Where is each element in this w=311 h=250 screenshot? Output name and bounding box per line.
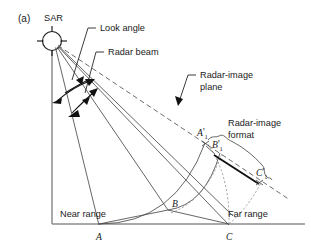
point-C-base: C — [226, 231, 233, 242]
leader-radar-beam — [85, 52, 104, 93]
tick-A1-icon — [202, 141, 209, 146]
point-label-A1: A'1 — [196, 126, 208, 140]
leader-line-group — [72, 28, 196, 106]
terrain-slope-B-C — [168, 210, 229, 224]
radar-image-format-label-line2: format — [228, 130, 254, 140]
point-B1-subscript: 1 — [220, 145, 223, 152]
ray-sar-to-A — [56, 48, 100, 226]
far-range-label: Far range — [228, 209, 268, 219]
radar-image-format-group — [206, 146, 259, 184]
leader-look-angle — [72, 28, 96, 80]
point-C1-subscript: 1 — [264, 173, 267, 180]
point-A1-subscript: 1 — [205, 133, 208, 140]
point-label-B: B — [172, 198, 178, 209]
figure-panel-a: (a) SAR Look angle Radar beam Radar-imag… — [0, 0, 311, 250]
radar-image-plane-label-line1: Radar-image — [200, 70, 253, 80]
look-angle-label: Look angle — [100, 23, 145, 33]
point-B-base: B — [172, 198, 178, 209]
leader-radar-image-plane — [180, 75, 196, 99]
ray-sar-to-B — [57, 47, 168, 210]
look-angle-arrowhead-left-icon — [52, 98, 62, 104]
axes-group — [52, 41, 305, 224]
arc-C-to-A1-dotted — [207, 143, 229, 224]
near-range-label: Near range — [60, 209, 106, 219]
beam-edge-arc — [65, 80, 88, 93]
radar-beam-arc — [72, 92, 94, 113]
point-label-A: A — [95, 231, 102, 242]
radar-beam-label: Radar beam — [108, 47, 159, 57]
radar-image-plane-label-line2: plane — [200, 82, 222, 92]
point-label-B1: B'1 — [212, 138, 223, 152]
beam-edge-arrowhead-2-icon — [82, 97, 90, 105]
look-angle-arc — [57, 81, 90, 101]
radar-image-format-label-line1: Radar-image — [228, 118, 281, 128]
terrain-feature-triangle — [99, 210, 229, 224]
panel-label: (a) — [18, 13, 30, 24]
point-label-C: C — [226, 231, 233, 242]
terrain-slope-A-B — [99, 210, 168, 224]
point-label-C1: C'1 — [256, 166, 267, 180]
leader-radar-image-plane-arrowhead-icon — [175, 96, 183, 106]
sar-geometry-diagram: (a) SAR Look angle Radar beam Radar-imag… — [0, 0, 311, 250]
point-A-base: A — [95, 231, 102, 242]
sar-label: SAR — [44, 13, 63, 23]
